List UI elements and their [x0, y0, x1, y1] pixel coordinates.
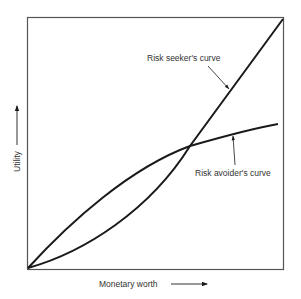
utility-diagram: Risk seeker's curve Risk avoider's curve…	[0, 0, 301, 299]
y-axis-label: Utility	[12, 150, 22, 172]
risk-avoider-label: Risk avoider's curve	[195, 168, 271, 178]
risk-avoider-curve	[28, 124, 278, 268]
risk-seeker-pointer-arrow	[208, 66, 229, 89]
x-axis-label: Monetary worth	[99, 279, 158, 289]
risk-avoider-pointer-arrow	[233, 136, 235, 165]
risk-seeker-label: Risk seeker's curve	[147, 53, 221, 63]
